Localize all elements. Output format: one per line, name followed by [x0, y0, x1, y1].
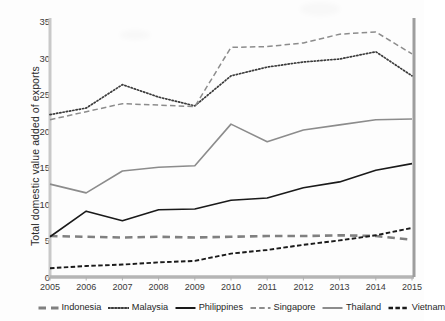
legend-label-philippines: Philippines [199, 303, 243, 312]
legend-swatch-singapore [250, 304, 271, 312]
x-axis-tick-2005: 2005 [40, 282, 60, 292]
series-line-malaysia [50, 52, 412, 115]
x-axis-tick-2009: 2009 [185, 282, 205, 292]
legend-label-singapore: Singapore [274, 303, 316, 312]
legend-label-vietnam: Vietnam [412, 303, 445, 312]
legend-swatch-philippines [175, 304, 196, 312]
legend-item-philippines[interactable]: Philippines [175, 303, 243, 312]
series-line-philippines [50, 164, 412, 237]
x-axis-tick-2006: 2006 [76, 282, 96, 292]
chart-legend: IndonesiaMalaysiaPhilippinesSingaporeTha… [38, 299, 416, 317]
legend-swatch-indonesia [38, 304, 59, 312]
x-axis-tick-2008: 2008 [149, 282, 169, 292]
x-axis-tick-2011: 2011 [258, 282, 277, 292]
legend-item-malaysia[interactable]: Malaysia [108, 303, 168, 312]
series-line-thailand [50, 119, 412, 193]
x-axis-tick-2010: 2010 [221, 282, 241, 292]
x-axis-tick-2007: 2007 [112, 282, 132, 292]
x-axis-tick-2014: 2014 [366, 282, 386, 292]
legend-item-indonesia[interactable]: Indonesia [38, 303, 101, 312]
legend-item-vietnam[interactable]: Vietnam [388, 303, 445, 312]
legend-swatch-thailand [322, 304, 343, 312]
legend-swatch-vietnam [388, 304, 409, 312]
legend-swatch-malaysia [108, 304, 129, 312]
x-axis-tick-2013: 2013 [330, 282, 350, 292]
series-line-indonesia [50, 235, 412, 239]
x-axis-tick-2015: 2015 [402, 282, 422, 292]
legend-item-singapore[interactable]: Singapore [250, 303, 315, 312]
legend-label-indonesia: Indonesia [62, 303, 102, 312]
legend-label-malaysia: Malaysia [132, 303, 168, 312]
series-line-vietnam [50, 228, 412, 268]
x-axis-tick-2012: 2012 [293, 282, 313, 292]
legend-label-thailand: Thailand [346, 303, 381, 312]
legend-item-thailand[interactable]: Thailand [322, 303, 381, 312]
